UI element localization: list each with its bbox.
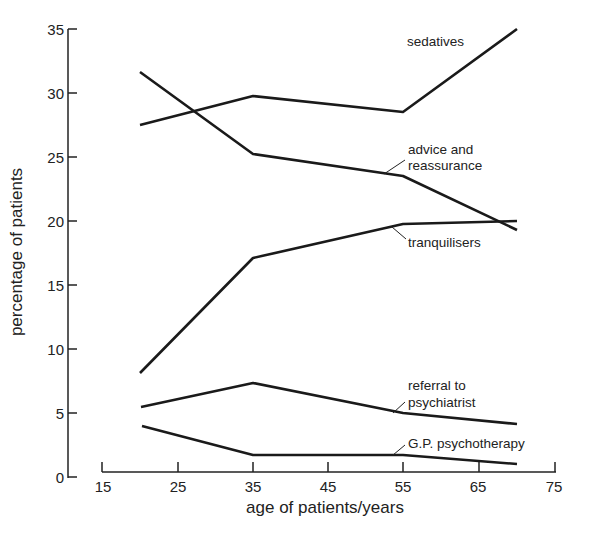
y-tick-label: 30 (47, 85, 64, 102)
x-axis-title: age of patients/years (246, 498, 404, 517)
leader-advice (384, 160, 405, 174)
label-advice-line1: advice and (408, 142, 473, 157)
y-tick-label: 0 (56, 469, 64, 486)
y-axis-title: percentage of patients (7, 168, 26, 336)
y-tick-label: 5 (56, 405, 64, 422)
line-chart: 35 30 25 20 15 10 5 0 percentage of pati… (0, 0, 589, 551)
label-sedatives: sedatives (407, 34, 464, 49)
leader-tranquilisers (392, 227, 406, 239)
label-tranquilisers: tranquilisers (408, 235, 481, 250)
series-labels: sedatives advice and reassurance tranqui… (384, 34, 525, 455)
label-referral-line1: referral to (408, 378, 466, 393)
y-tick-label: 20 (47, 213, 64, 230)
x-tick-label: 75 (546, 478, 563, 495)
x-tick-label: 25 (170, 478, 187, 495)
y-tick-label: 10 (47, 341, 64, 358)
x-tick-label: 45 (320, 478, 337, 495)
x-tick-label: 65 (470, 478, 487, 495)
y-axis: 35 30 25 20 15 10 5 0 percentage of pati… (7, 21, 77, 486)
leader-gp (393, 445, 405, 455)
label-advice-line2: reassurance (408, 158, 482, 173)
y-tick-label: 15 (47, 277, 64, 294)
x-tick-label: 35 (245, 478, 262, 495)
y-tick-label: 25 (47, 149, 64, 166)
x-tick-label: 15 (95, 478, 112, 495)
x-axis: 15 25 35 45 55 65 75 age of patients/yea… (95, 462, 563, 517)
y-tick-label: 35 (47, 21, 64, 38)
label-gp-psychotherapy: G.P. psychotherapy (408, 436, 525, 451)
label-referral-line2: psychiatrist (408, 395, 476, 410)
x-tick-label: 55 (395, 478, 412, 495)
